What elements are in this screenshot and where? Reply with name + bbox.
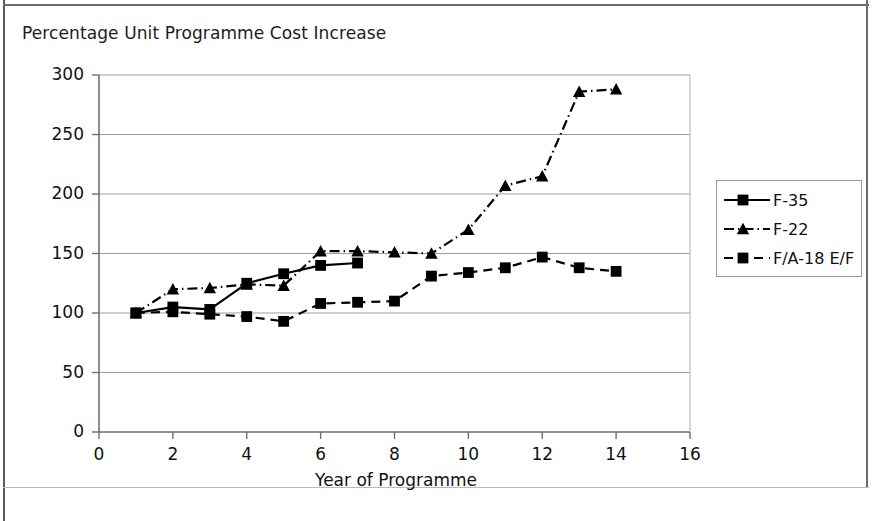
- series-f-22: [130, 83, 623, 318]
- x-axis-title: Year of Programme: [236, 470, 556, 490]
- data-series-layer: [130, 83, 623, 327]
- y-axis-tick-label: 0: [28, 421, 84, 441]
- chart-legend: F-35F-22F/A-18 E/F: [716, 180, 862, 277]
- y-axis-tick-label: 100: [28, 302, 84, 322]
- y-axis-tick-label: 200: [28, 183, 84, 203]
- legend-swatch-triangle-icon: [723, 221, 771, 237]
- y-axis-tick-label: 150: [28, 243, 84, 263]
- x-axis-tick-label: 0: [79, 444, 119, 464]
- legend-item-f-a-18-e-f[interactable]: F/A-18 E/F: [723, 245, 854, 271]
- legend-item-f-35[interactable]: F-35: [723, 187, 808, 213]
- x-axis-tick-label: 14: [596, 444, 636, 464]
- x-axis-tick-label: 12: [522, 444, 562, 464]
- series-f-a-18-e-f: [131, 252, 622, 327]
- x-axis-tick-label: 8: [375, 444, 415, 464]
- legend-item-label: F-35: [773, 191, 808, 210]
- legend-item-label: F-22: [773, 220, 808, 239]
- legend-item-label: F/A-18 E/F: [773, 249, 854, 268]
- y-axis-tick-label: 50: [28, 362, 84, 382]
- legend-swatch-square-icon: [723, 250, 771, 266]
- chart-figure: Percentage Unit Programme Cost Increase …: [0, 0, 875, 521]
- x-axis-tick-label: 10: [448, 444, 488, 464]
- x-axis-tick-label: 4: [227, 444, 267, 464]
- legend-item-f-22[interactable]: F-22: [723, 216, 808, 242]
- legend-swatch-square-icon: [723, 192, 771, 208]
- y-axis-tick-label: 250: [28, 124, 84, 144]
- x-axis-tick-label: 16: [670, 444, 710, 464]
- x-axis-tick-label: 6: [301, 444, 341, 464]
- x-axis-tick-label: 2: [153, 444, 193, 464]
- y-axis-tick-label: 300: [28, 64, 84, 84]
